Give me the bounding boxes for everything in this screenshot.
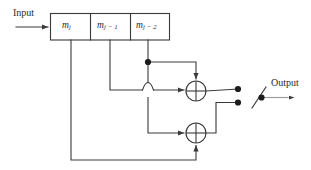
xor-top-output-wire bbox=[206, 89, 238, 91]
register-cell-sub-2: j − 2 bbox=[143, 23, 157, 30]
switch-contact-lower bbox=[235, 99, 241, 105]
encoder-diagram: Input Output mj mj − 1 mj − 2 bbox=[0, 0, 311, 170]
register-cell-sub-1: j − 1 bbox=[104, 23, 118, 30]
tap-wire-mj bbox=[71, 40, 196, 160]
register-cell-sub-0: j bbox=[69, 23, 71, 30]
wire-hop bbox=[143, 83, 185, 91]
switch-contact-upper bbox=[235, 86, 241, 92]
register-cell-label-mj: mj bbox=[62, 21, 71, 31]
xor-gate-bottom bbox=[186, 123, 206, 143]
xor-gate-top bbox=[186, 81, 206, 101]
output-arrowhead bbox=[289, 96, 295, 100]
register-cell-label-mj1: mj − 1 bbox=[97, 21, 118, 31]
switch-pole-dot bbox=[258, 94, 264, 100]
register-cell-base-0: m bbox=[62, 20, 69, 30]
register-cell-label-mj2: mj − 2 bbox=[136, 21, 157, 31]
register-cell-base-2: m bbox=[136, 20, 143, 30]
junction-dot-mj2 bbox=[145, 59, 151, 65]
input-label: Input bbox=[13, 8, 34, 18]
output-label: Output bbox=[271, 78, 299, 88]
register-cell-base-1: m bbox=[97, 20, 104, 30]
xor-bottom-output-wire bbox=[206, 103, 238, 134]
tap-wire-mj1 bbox=[110, 40, 143, 90]
